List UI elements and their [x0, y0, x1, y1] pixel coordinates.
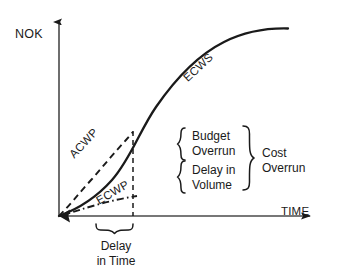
origin-arrowhead: [59, 210, 70, 223]
annotation-budget-overrun: Budget Overrun: [192, 129, 235, 158]
evm-s-curve-figure: NOK TIME ACWP ECWP ECWS Budget Overrun D…: [0, 0, 340, 276]
brace-budget-overrun: [178, 128, 186, 160]
brace-cost-overrun: [243, 126, 254, 190]
axis-y-label: NOK: [15, 27, 43, 41]
axis-x-label: TIME: [281, 205, 309, 218]
annotation-delay-in-volume: Delay in Volume: [192, 163, 235, 192]
chart-canvas: [0, 0, 340, 276]
curve-acwp: [59, 132, 133, 216]
curve-ecws: [59, 28, 288, 216]
axis-group: [59, 22, 310, 216]
brace-delay-in-volume: [178, 161, 186, 193]
annotation-cost-overrun: Cost Overrun: [262, 146, 305, 175]
brace-delay-in-time: [96, 224, 133, 234]
annotation-delay-in-time: Delay in Time: [90, 239, 142, 268]
